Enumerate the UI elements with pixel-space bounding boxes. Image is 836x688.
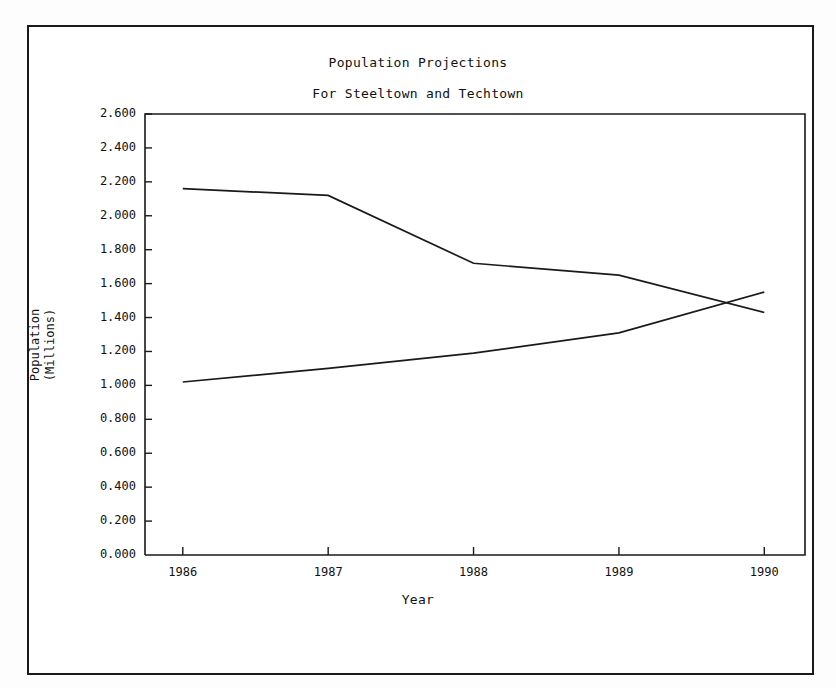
x-tick-label: 1988	[439, 565, 509, 579]
y-tick-label: 1.400	[72, 310, 136, 324]
chart-page: Population Projections For Steeltown and…	[0, 0, 836, 688]
y-tick-label: 1.600	[72, 276, 136, 290]
y-tick-label: 2.000	[72, 208, 136, 222]
x-tick-label: 1989	[584, 565, 654, 579]
y-tick-label: 0.400	[72, 479, 136, 493]
y-tick-label: 1.200	[72, 343, 136, 357]
series-lines	[183, 189, 764, 382]
x-tick-label: 1987	[293, 565, 363, 579]
y-tick-label: 2.200	[72, 174, 136, 188]
series-line-steeltown	[183, 189, 764, 313]
y-tick-label: 2.600	[72, 106, 136, 120]
x-tick-label: 1990	[729, 565, 799, 579]
y-tick-label: 2.400	[72, 140, 136, 154]
chart-canvas: Population Projections For Steeltown and…	[0, 0, 836, 688]
tick-marks	[145, 114, 764, 555]
y-tick-label: 1.000	[72, 377, 136, 391]
x-tick-label: 1986	[148, 565, 218, 579]
axis-frame	[145, 114, 805, 555]
y-tick-label: 1.800	[72, 242, 136, 256]
series-line-techtown	[183, 292, 764, 382]
y-tick-label: 0.200	[72, 513, 136, 527]
y-tick-label: 0.800	[72, 411, 136, 425]
y-tick-label: 0.600	[72, 445, 136, 459]
y-tick-label: 0.000	[72, 547, 136, 561]
